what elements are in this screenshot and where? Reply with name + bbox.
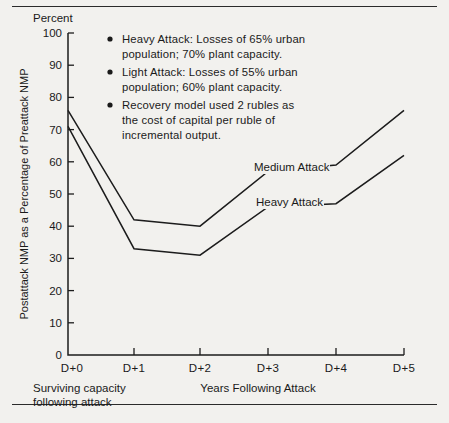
series-label-medium-attack: Medium Attack xyxy=(254,161,330,173)
x-tick-label: D+3 xyxy=(257,362,280,374)
y-tick-label: 10 xyxy=(49,317,62,329)
legend-item-3-line3: incremental output. xyxy=(122,129,221,141)
y-tick-label: 40 xyxy=(49,220,62,232)
line-chart: 100 90 80 70 60 50 40 30 20 10 0 Percent… xyxy=(0,0,449,423)
series-label-heavy-attack: Heavy Attack xyxy=(256,196,323,208)
legend-item-3-line2: the cost of capital per ruble of xyxy=(122,114,276,126)
y-tick-label: 0 xyxy=(56,349,62,361)
y-tick-label: 20 xyxy=(49,285,62,297)
legend-notes: Heavy Attack: Losses of 65% urban popula… xyxy=(107,33,305,141)
x-axis-caption-line2: following attack xyxy=(33,396,112,408)
y-tick-label: 80 xyxy=(49,91,62,103)
legend-bullet-icon xyxy=(107,69,112,74)
y-axis-tick-labels: 100 90 80 70 60 50 40 30 20 10 0 xyxy=(43,27,62,361)
x-tick-label: D+2 xyxy=(189,362,212,374)
x-tick-label: D+5 xyxy=(393,362,416,374)
legend-item-1-line1: Heavy Attack: Losses of 65% urban xyxy=(122,33,305,45)
legend-item-2-line1: Light Attack: Losses of 55% urban xyxy=(122,66,298,78)
legend-bullet-icon xyxy=(107,36,112,41)
chart-figure: 100 90 80 70 60 50 40 30 20 10 0 Percent… xyxy=(0,0,449,423)
x-axis-ticks xyxy=(134,348,404,355)
legend-item-3-line1: Recovery model used 2 rubles as xyxy=(122,99,295,111)
y-tick-label: 30 xyxy=(49,252,62,264)
y-axis-ticks xyxy=(68,33,74,323)
x-axis-tick-labels: D+0 D+1 D+2 D+3 D+4 D+5 xyxy=(61,362,416,374)
y-axis-title: Postattack NMP as a Percentage of Preatt… xyxy=(18,68,30,319)
x-axis-caption-line1: Surviving capacity xyxy=(33,382,126,394)
y-axis-unit-label: Percent xyxy=(33,12,73,24)
y-tick-label: 60 xyxy=(49,156,62,168)
x-axis-title: Years Following Attack xyxy=(200,382,316,394)
series-line-heavy-attack xyxy=(68,126,404,255)
x-tick-label: D+0 xyxy=(61,362,84,374)
legend-item-1-line2: population; 70% plant capacity. xyxy=(122,48,282,60)
legend-item-2-line2: population; 60% plant capacity. xyxy=(122,81,282,93)
y-tick-label: 100 xyxy=(43,27,62,39)
x-tick-label: D+1 xyxy=(123,362,146,374)
y-tick-label: 50 xyxy=(49,188,62,200)
legend-bullet-icon xyxy=(107,102,112,107)
y-tick-label: 90 xyxy=(49,59,62,71)
series-line-medium-attack xyxy=(68,110,404,226)
x-tick-label: D+4 xyxy=(325,362,348,374)
y-tick-label: 70 xyxy=(49,124,62,136)
